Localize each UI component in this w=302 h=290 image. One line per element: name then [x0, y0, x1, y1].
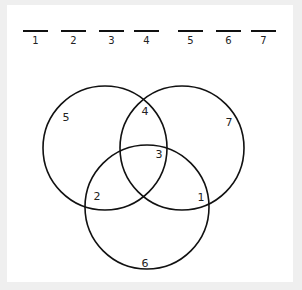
venn-diagram: 5473216 [0, 0, 302, 290]
region-label-3: 3 [156, 148, 163, 161]
region-label-2: 2 [94, 190, 101, 203]
region-label-6: 6 [142, 257, 149, 270]
region-label-5: 5 [63, 111, 70, 124]
region-label-1: 1 [198, 191, 205, 204]
region-label-4: 4 [142, 105, 149, 118]
circle-bottom [85, 145, 209, 269]
region-label-7: 7 [226, 116, 233, 129]
circle-right [120, 86, 244, 210]
